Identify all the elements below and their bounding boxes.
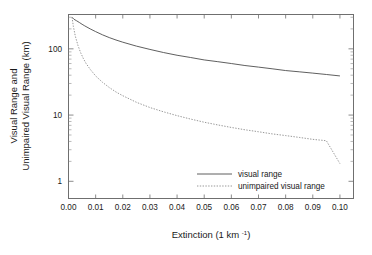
legend-label-unimpaired-visual-range: unimpaired visual range: [238, 182, 325, 191]
chart-legend: visual range unimpaired visual range: [197, 170, 325, 191]
x-tick-label-9: 0.09: [305, 203, 321, 212]
x-tick-label-8: 0.08: [278, 203, 294, 212]
x-tick-label-5: 0.05: [196, 203, 212, 212]
y-axis-title-line2: Unimpaired Visual Range (km): [20, 41, 31, 170]
y-tick-label-1: 10: [53, 111, 63, 120]
chart-canvas: 0.000.010.020.030.040.050.060.070.080.09…: [0, 0, 372, 255]
y-tick-label-2: 100: [48, 45, 62, 54]
chart-figure: 0.000.010.020.030.040.050.060.070.080.09…: [0, 0, 372, 255]
y-axis-tick-labels: 110100: [48, 45, 62, 186]
legend-label-visual-range: visual range: [238, 170, 283, 179]
y-axis-title-line1: Visual Range and: [8, 69, 19, 144]
x-tick-label-10: 0.10: [332, 203, 348, 212]
x-tick-label-2: 0.02: [115, 203, 131, 212]
x-tick-label-1: 0.01: [88, 203, 104, 212]
x-tick-label-7: 0.07: [251, 203, 267, 212]
x-tick-label-6: 0.06: [223, 203, 239, 212]
x-axis-ticks: [69, 15, 340, 199]
x-tick-label-4: 0.04: [169, 203, 185, 212]
x-axis-tick-labels: 0.000.010.020.030.040.050.060.070.080.09…: [61, 203, 349, 212]
y-axis-ticks: [69, 49, 354, 181]
plot-frame: [69, 15, 354, 199]
x-tick-label-3: 0.03: [142, 203, 158, 212]
series-visual-range: [72, 17, 340, 76]
data-series-group: [72, 17, 340, 163]
x-tick-label-0: 0.00: [61, 203, 77, 212]
x-axis-title: Extinction (1 km -1): [172, 229, 251, 240]
series-unimpaired-visual-range: [72, 17, 340, 163]
y-tick-label-0: 1: [57, 177, 62, 186]
